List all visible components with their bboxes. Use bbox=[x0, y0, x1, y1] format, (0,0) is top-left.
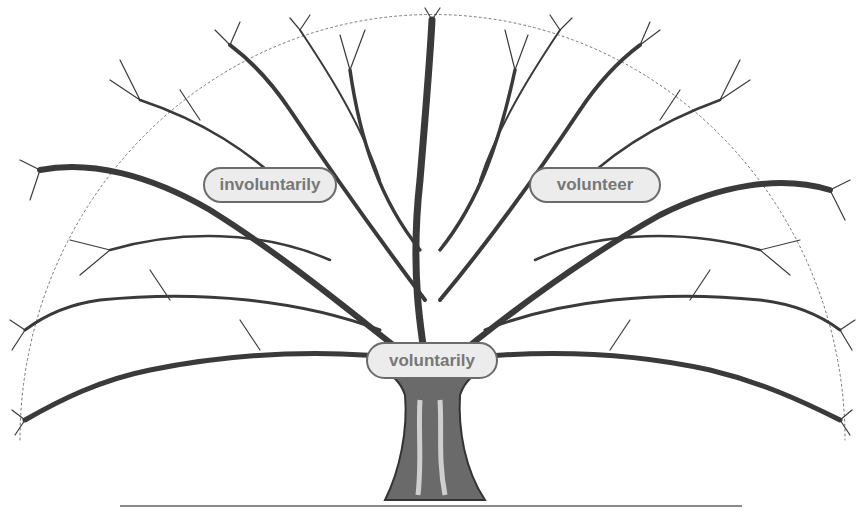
word-label-volunteer: volunteer bbox=[529, 167, 661, 203]
trunk bbox=[375, 368, 490, 500]
word-label-voluntarily: voluntarily bbox=[366, 342, 498, 379]
ground-line bbox=[120, 505, 742, 507]
word-label-involuntarily: involuntarily bbox=[203, 167, 337, 203]
tree-illustration bbox=[0, 0, 863, 515]
